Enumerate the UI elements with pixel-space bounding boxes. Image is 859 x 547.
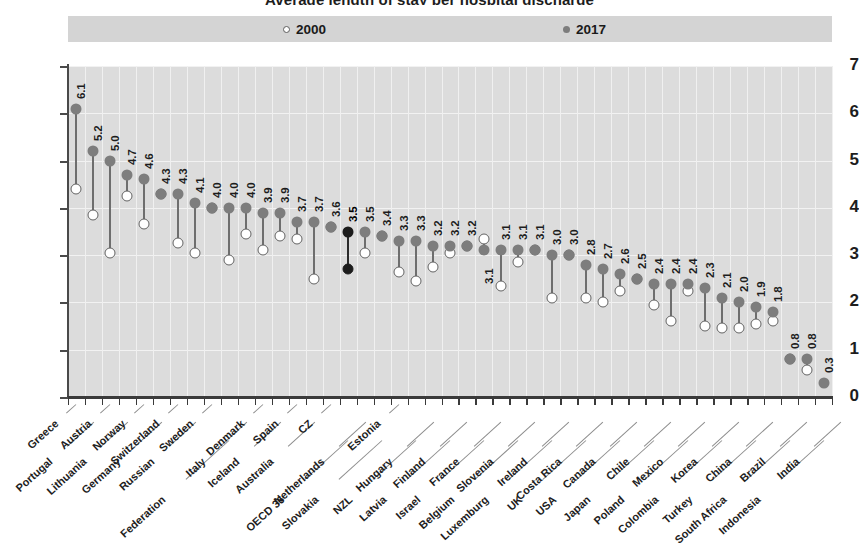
data-point-2000[interactable]	[733, 323, 744, 334]
data-point-2017[interactable]	[445, 240, 456, 251]
x-tick-mark	[374, 398, 375, 405]
y-tick-mark	[60, 161, 68, 163]
data-point-2000[interactable]	[648, 299, 659, 310]
data-point-2000[interactable]	[699, 321, 710, 332]
data-point-2017[interactable]	[631, 273, 642, 284]
data-point-2017[interactable]	[326, 221, 337, 232]
data-point-2017[interactable]	[224, 202, 235, 213]
data-point-2000[interactable]	[665, 316, 676, 327]
data-point-2017[interactable]	[88, 146, 99, 157]
data-point-2000[interactable]	[767, 316, 778, 327]
gridline-vertical	[170, 66, 171, 397]
data-point-2000[interactable]	[411, 276, 422, 287]
data-point-2000[interactable]	[105, 247, 116, 258]
data-point-2017[interactable]	[818, 377, 829, 388]
legend-item-2000[interactable]: 2000	[283, 16, 326, 42]
data-point-2017[interactable]	[563, 250, 574, 261]
data-value-label: 3.0	[568, 230, 580, 245]
data-point-2017[interactable]	[173, 188, 184, 199]
data-point-2017[interactable]	[597, 264, 608, 275]
data-point-2017[interactable]	[512, 245, 523, 256]
gridline-vertical	[781, 66, 782, 397]
x-tick-mark	[85, 398, 86, 405]
data-point-2017[interactable]	[241, 202, 252, 213]
data-point-2017[interactable]	[275, 207, 286, 218]
data-point-2000[interactable]	[360, 247, 371, 258]
data-point-2017[interactable]	[139, 174, 150, 185]
data-point-2017[interactable]	[377, 231, 388, 242]
data-point-2000[interactable]	[597, 297, 608, 308]
data-point-2000[interactable]	[258, 245, 269, 256]
x-tick-mark	[628, 398, 629, 405]
data-point-2000[interactable]	[122, 191, 133, 202]
data-point-2017[interactable]	[801, 354, 812, 365]
data-value-label: 1.8	[772, 286, 784, 301]
data-point-2017[interactable]	[614, 269, 625, 280]
data-point-2000[interactable]	[428, 261, 439, 272]
data-point-2017[interactable]	[682, 278, 693, 289]
data-point-2017[interactable]	[767, 306, 778, 317]
data-point-2000[interactable]	[343, 264, 354, 275]
data-point-2000[interactable]	[546, 292, 557, 303]
gridline-vertical	[204, 66, 205, 397]
data-point-2017[interactable]	[546, 250, 557, 261]
chart-legend: 2000 2017	[68, 16, 832, 42]
data-point-2000[interactable]	[190, 247, 201, 258]
data-value-label: 3.5	[364, 206, 376, 221]
data-point-2000[interactable]	[580, 292, 591, 303]
x-tick-mark	[577, 398, 578, 405]
gridline-vertical	[119, 66, 120, 397]
data-point-2017[interactable]	[428, 240, 439, 251]
data-point-2000[interactable]	[173, 238, 184, 249]
legend-item-2017[interactable]: 2017	[563, 16, 606, 42]
category-leader-line	[576, 422, 603, 446]
data-point-2017[interactable]	[292, 217, 303, 228]
data-point-2000[interactable]	[292, 233, 303, 244]
data-point-2000[interactable]	[614, 285, 625, 296]
data-point-2017[interactable]	[411, 235, 422, 246]
data-point-2017[interactable]	[190, 198, 201, 209]
data-point-2000[interactable]	[394, 266, 405, 277]
data-value-label: 3.1	[534, 225, 546, 240]
data-point-2017[interactable]	[156, 188, 167, 199]
data-point-2000[interactable]	[71, 183, 82, 194]
x-tick-mark	[289, 398, 290, 405]
data-point-2000[interactable]	[750, 318, 761, 329]
data-point-2000[interactable]	[512, 257, 523, 268]
data-point-2000[interactable]	[716, 323, 727, 334]
data-value-label: 2.4	[687, 258, 699, 273]
data-point-2000[interactable]	[495, 280, 506, 291]
data-point-2017[interactable]	[784, 354, 795, 365]
data-point-2017[interactable]	[394, 235, 405, 246]
data-point-2017[interactable]	[461, 240, 472, 251]
data-point-2017[interactable]	[716, 292, 727, 303]
data-point-2000[interactable]	[478, 233, 489, 244]
data-point-2017[interactable]	[105, 155, 116, 166]
data-point-2017[interactable]	[360, 226, 371, 237]
data-point-2017[interactable]	[71, 103, 82, 114]
data-point-2000[interactable]	[241, 228, 252, 239]
data-point-2017[interactable]	[648, 278, 659, 289]
data-point-2017[interactable]	[529, 245, 540, 256]
data-point-2000[interactable]	[224, 254, 235, 265]
gridline-vertical	[238, 66, 239, 397]
data-point-2017[interactable]	[699, 283, 710, 294]
y-tick-mark	[60, 397, 68, 399]
data-point-2000[interactable]	[309, 273, 320, 284]
data-point-2017[interactable]	[207, 202, 218, 213]
data-point-2017[interactable]	[258, 207, 269, 218]
data-point-2017[interactable]	[343, 226, 354, 237]
data-point-2000[interactable]	[275, 231, 286, 242]
data-point-2017[interactable]	[495, 245, 506, 256]
data-point-2017[interactable]	[122, 169, 133, 180]
data-point-2000[interactable]	[139, 219, 150, 230]
data-point-2017[interactable]	[665, 278, 676, 289]
data-point-2000[interactable]	[801, 364, 812, 375]
data-point-2017[interactable]	[733, 297, 744, 308]
data-point-2017[interactable]	[309, 217, 320, 228]
data-point-2000[interactable]	[88, 209, 99, 220]
data-point-2017[interactable]	[750, 302, 761, 313]
data-point-2017[interactable]	[580, 259, 591, 270]
data-point-2017[interactable]	[478, 245, 489, 256]
category-leader-line	[644, 422, 671, 446]
